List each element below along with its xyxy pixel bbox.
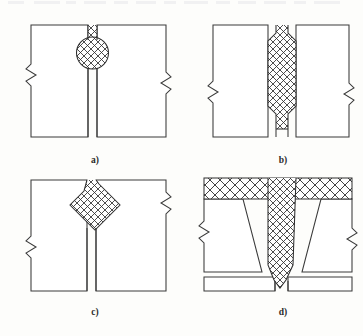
panel-b-weld-fill: [266, 23, 298, 133]
weld-cross-section-figure: a) b): [0, 0, 363, 336]
panel-d-caption: d): [279, 307, 287, 318]
panel-d: d): [199, 176, 357, 318]
figure-canvas: a) b): [0, 0, 363, 336]
panel-a-left-plate: [26, 25, 88, 137]
panel-d-right-plate: [302, 199, 357, 272]
panel-d-left-root-block: [204, 277, 275, 291]
panel-c-caption: c): [91, 307, 98, 318]
panel-a: a): [26, 25, 171, 166]
panel-b-caption: b): [279, 155, 287, 166]
panel-d-weld-fill: [266, 176, 298, 292]
panel-d-right-root-block: [288, 277, 352, 291]
panel-a-caption: a): [91, 155, 99, 166]
panel-a-right-plate: [97, 25, 171, 137]
panel-c: c): [26, 178, 171, 318]
panel-b: b): [208, 23, 354, 166]
panel-d-weld-wedge: [266, 176, 298, 292]
panel-b-weld-nugget: [266, 23, 298, 133]
panel-b-right-plate: [296, 25, 354, 137]
panel-b-left-plate: [208, 25, 268, 137]
panel-d-left-plate: [199, 199, 262, 272]
scan-artifact-strip: [8, 1, 340, 4]
